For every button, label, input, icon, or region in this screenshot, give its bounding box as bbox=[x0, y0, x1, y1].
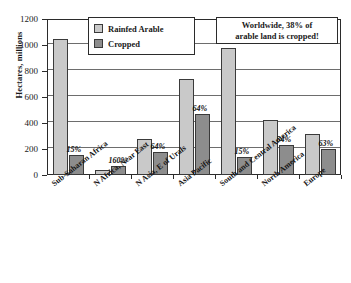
legend-label-cropped: Cropped bbox=[108, 39, 140, 49]
y-tick-label: 200 bbox=[6, 144, 38, 154]
legend-label-rainfed: Rainfed Arable bbox=[108, 24, 164, 34]
x-tick-mark bbox=[131, 175, 132, 179]
bar-value-label: 63% bbox=[319, 139, 334, 148]
y-tick-label: 400 bbox=[6, 118, 38, 128]
legend-item-cropped: Cropped bbox=[94, 36, 189, 51]
x-tick-mark bbox=[299, 175, 300, 179]
annotation-callout: Worldwide, 38% of arable land is cropped… bbox=[216, 17, 338, 44]
x-tick-mark bbox=[257, 175, 258, 179]
bar-chart: Hectares, millions 020040060080010001200… bbox=[0, 0, 351, 283]
annotation-line-2: arable land is cropped! bbox=[235, 31, 319, 42]
bar-value-label: 64% bbox=[193, 104, 208, 113]
annotation-line-1: Worldwide, 38% of bbox=[242, 20, 313, 31]
x-tick-mark bbox=[341, 175, 342, 179]
legend-swatch-icon-cropped bbox=[94, 39, 103, 48]
bar-rainfed-arable bbox=[179, 79, 194, 175]
y-tick-label: 0 bbox=[6, 170, 38, 180]
x-tick-mark bbox=[215, 175, 216, 179]
y-axis-title: Hectares, millions bbox=[14, 10, 24, 120]
y-tick-label: 1000 bbox=[6, 40, 38, 50]
bar-value-label: 15% bbox=[235, 147, 250, 156]
bar-rainfed-arable bbox=[53, 39, 68, 176]
chart-legend: Rainfed Arable Cropped bbox=[88, 17, 195, 55]
x-tick-mark bbox=[173, 175, 174, 179]
y-tick-label: 1200 bbox=[6, 14, 38, 24]
y-tick-mark bbox=[42, 175, 47, 176]
bar-value-label: 64% bbox=[151, 142, 166, 151]
legend-item-rainfed-arable: Rainfed Arable bbox=[94, 21, 189, 36]
y-tick-label: 600 bbox=[6, 92, 38, 102]
legend-swatch-icon-rainfed bbox=[94, 24, 103, 33]
y-tick-label: 800 bbox=[6, 66, 38, 76]
x-tick-mark bbox=[89, 175, 90, 179]
bar-value-label: 15% bbox=[67, 145, 82, 154]
bar-rainfed-arable bbox=[221, 48, 236, 175]
bar-group: 15% bbox=[47, 19, 89, 175]
